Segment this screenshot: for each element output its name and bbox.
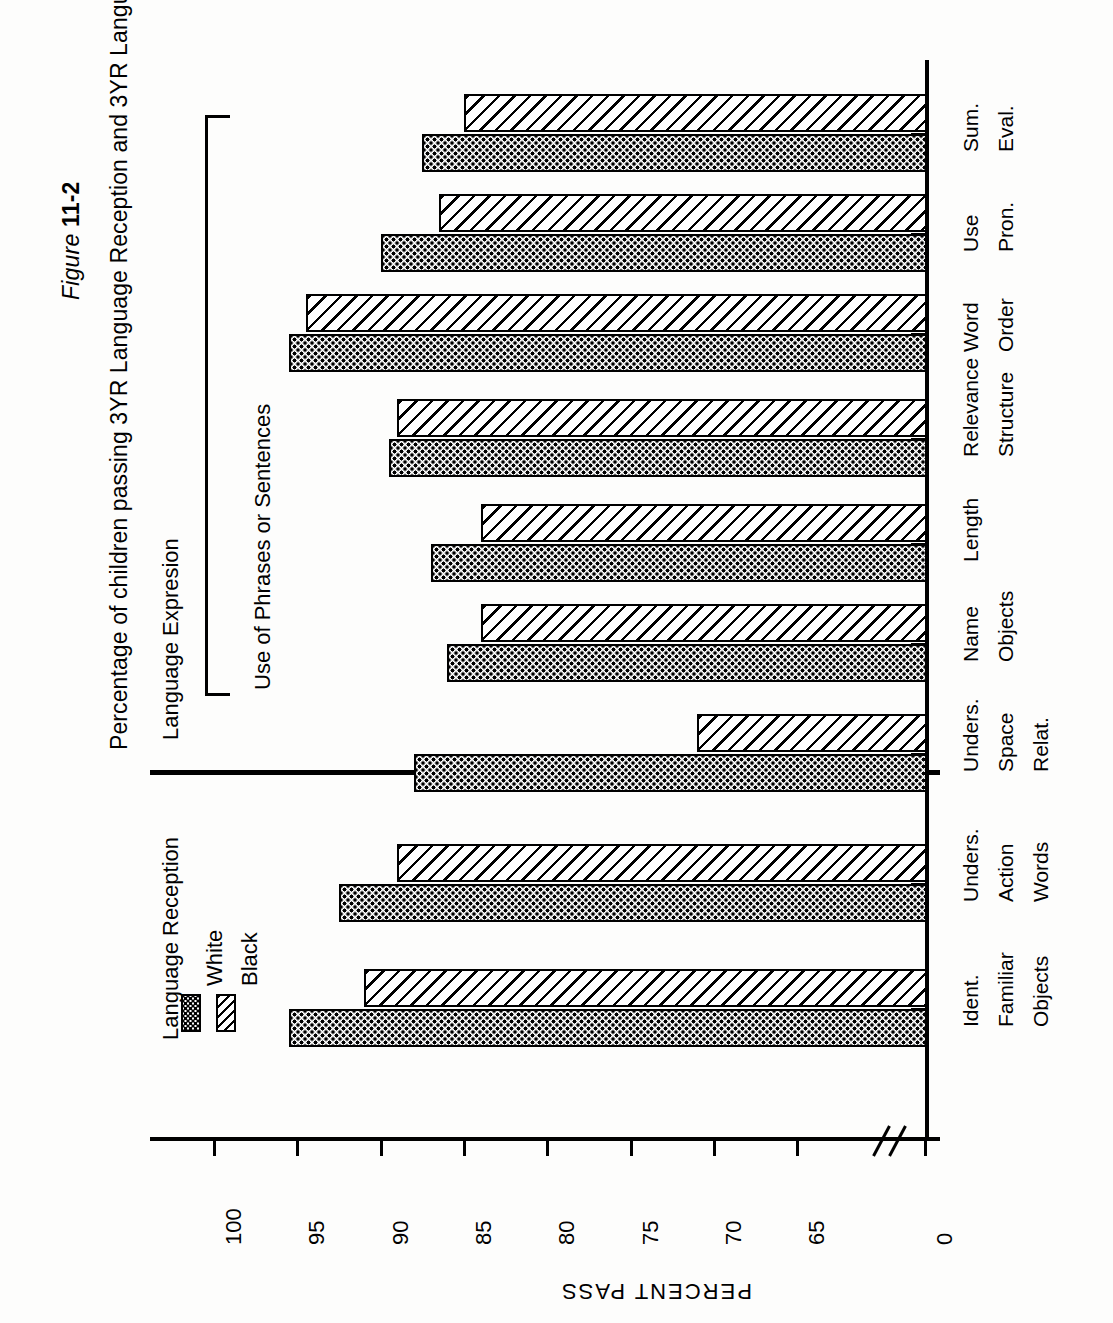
bracket-heading: Use of Phrases or Sentences (252, 404, 274, 690)
bar-white (289, 334, 927, 372)
category-label: Objects (1030, 956, 1051, 1027)
bar-white (414, 754, 927, 792)
value-axis-tick-label: 65 (806, 1221, 828, 1245)
category-tick (911, 1008, 929, 1011)
value-axis-tick-label: 100 (223, 1208, 245, 1245)
value-axis-tick-label: 75 (640, 1221, 662, 1245)
bar-white (389, 439, 927, 477)
figure-number: Figure 11-2 (60, 181, 83, 300)
category-label: Action (995, 844, 1016, 902)
value-axis-tick (713, 1139, 716, 1156)
category-tick (911, 883, 929, 886)
bar-black (439, 194, 927, 232)
bar-black (464, 94, 927, 132)
legend: White Black (176, 866, 296, 1036)
value-axis-tick-label: 70 (723, 1221, 745, 1245)
legend-swatch-black (216, 994, 236, 1032)
legend-label-white: White (204, 930, 226, 986)
bar-black (697, 714, 927, 752)
value-axis-tick (796, 1139, 799, 1156)
category-label: Pron. (995, 202, 1016, 252)
value-axis-tick (463, 1139, 466, 1156)
category-label: Name (960, 606, 981, 662)
value-axis-tick (630, 1139, 633, 1156)
value-axis-tick-label: 90 (390, 1221, 412, 1245)
phrases-bracket (205, 115, 230, 696)
category-label: Order (995, 298, 1016, 352)
figure-number-value: 11-2 (58, 181, 84, 227)
category-label: Word (960, 302, 981, 352)
bar-white (431, 544, 927, 582)
bar-black (397, 399, 927, 437)
category-tick (911, 333, 929, 336)
category-label: Structure (995, 372, 1016, 457)
legend-label-black: Black (239, 932, 261, 986)
bar-black (306, 294, 927, 332)
bar-white (447, 644, 927, 682)
bar-white (339, 884, 927, 922)
value-axis-tick (380, 1139, 383, 1156)
bar-black (397, 844, 927, 882)
category-label: Space (995, 712, 1016, 772)
value-axis-tick-label: 80 (556, 1221, 578, 1245)
bar-white (381, 234, 927, 272)
bar-black (481, 604, 927, 642)
axis-break-mark-1 (872, 1125, 891, 1156)
category-label: Length (960, 498, 981, 562)
category-tick (911, 753, 929, 756)
value-axis-tick (924, 1139, 927, 1156)
category-label: Ident. (960, 974, 981, 1027)
value-axis-tick (213, 1139, 216, 1156)
category-label: Relevance (960, 358, 981, 457)
value-axis-tick (296, 1139, 299, 1156)
category-label: Eval. (995, 105, 1016, 152)
figure-number-prefix: Figure (58, 227, 84, 300)
figure-title: Percentage of children passing 3YR Langu… (108, 0, 131, 750)
category-label: Unders. (960, 828, 981, 902)
bar-black (364, 969, 927, 1007)
category-label: Relat. (1030, 717, 1051, 772)
bar-black (481, 504, 927, 542)
value-axis-tick-label: 95 (306, 1221, 328, 1245)
category-tick (911, 438, 929, 441)
category-label: Objects (995, 591, 1016, 662)
legend-swatch-white (181, 994, 201, 1032)
category-label: Sum. (960, 103, 981, 152)
section-heading-expression: Language Expresion (160, 538, 182, 740)
value-axis-title: PERCENT PASS (560, 1280, 752, 1302)
category-label: Use (960, 215, 981, 252)
category-label: Unders. (960, 698, 981, 772)
category-tick (911, 133, 929, 136)
value-axis-tick (546, 1139, 549, 1156)
figure-page: Figure 11-2 Percentage of children passi… (0, 0, 1113, 1323)
value-axis-tick-label: 0 (934, 1233, 956, 1245)
value-axis-line (150, 1137, 940, 1141)
axis-break-mark-2 (888, 1125, 907, 1156)
bar-white (289, 1009, 927, 1047)
bar-white (422, 134, 927, 172)
category-label: Words (1030, 842, 1051, 902)
category-tick (911, 643, 929, 646)
value-axis-tick-label: 85 (473, 1221, 495, 1245)
category-tick (911, 543, 929, 546)
category-label: Familiar (995, 952, 1016, 1027)
category-tick (911, 233, 929, 236)
